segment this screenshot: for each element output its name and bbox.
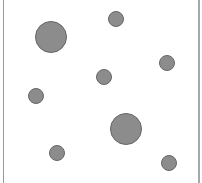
diagram-canvas: [0, 0, 202, 183]
circle-large-1: [36, 22, 67, 53]
circle-small-5: [50, 146, 65, 161]
circle-small-6: [162, 156, 177, 171]
circle-small-3: [97, 70, 112, 85]
circle-large-2: [111, 114, 142, 145]
circle-small-2: [160, 56, 175, 71]
circle-small-4: [29, 89, 44, 104]
circle-small-1: [109, 12, 124, 27]
circles-layer: [0, 0, 202, 183]
